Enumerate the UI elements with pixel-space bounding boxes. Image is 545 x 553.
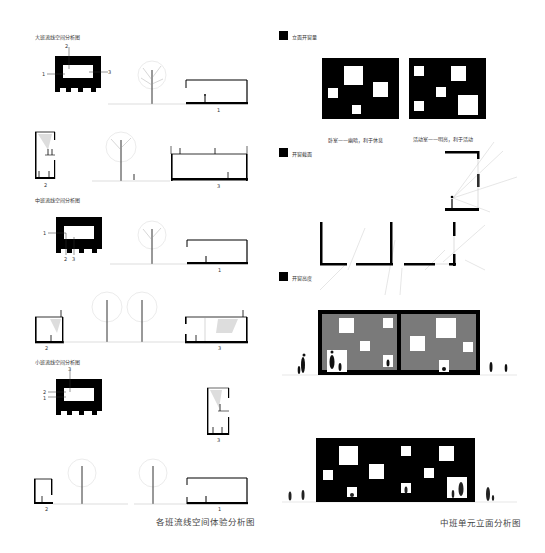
- middle-class-unit-elevation: [0, 0, 545, 553]
- right-caption: 中班单元立面分析图: [440, 516, 521, 528]
